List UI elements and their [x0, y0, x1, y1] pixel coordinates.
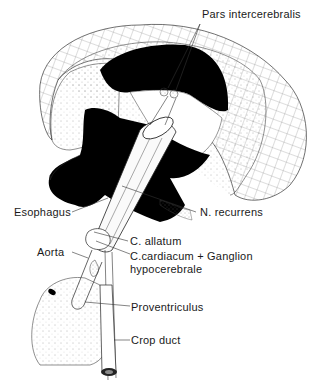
label-esophagus: Esophagus	[14, 206, 71, 218]
label-pars-intercerebralis: Pars intercerebralis	[202, 8, 301, 20]
label-crop-duct: Crop duct	[131, 334, 181, 346]
label-n-recurrens: N. recurrens	[200, 206, 263, 218]
label-hypocerebrale: hypocerebrale	[130, 263, 202, 275]
label-aorta: Aorta	[37, 246, 64, 258]
illustration	[0, 0, 324, 384]
label-c-cardiacum: C.cardiacum + Ganglion	[130, 250, 253, 262]
label-c-allatum: C. allatum	[130, 235, 182, 247]
proventriculus-structure	[32, 277, 109, 365]
label-proventriculus: Proventriculus	[131, 301, 204, 313]
anatomy-figure: Pars intercerebralis Esophagus N. recurr…	[0, 0, 324, 384]
